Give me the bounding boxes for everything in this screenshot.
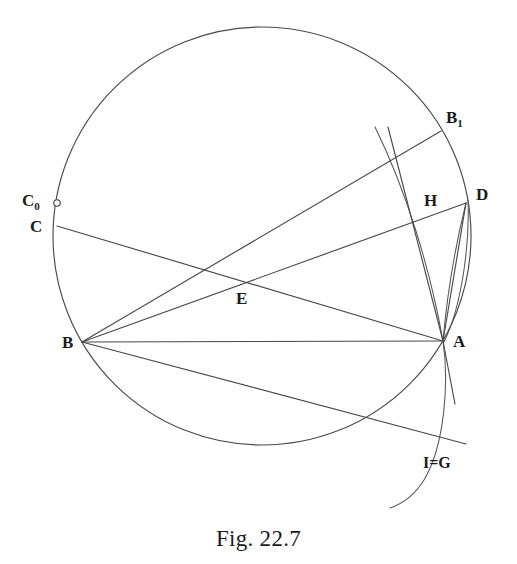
segment-b-ig bbox=[82, 342, 466, 444]
label-i-equals-g: I=G bbox=[423, 455, 451, 471]
label-c: C bbox=[30, 218, 42, 235]
label-a: A bbox=[453, 333, 465, 350]
geometry-diagram-svg bbox=[0, 0, 517, 564]
segment-b-b1 bbox=[82, 131, 441, 342]
label-b1: B1 bbox=[446, 109, 463, 129]
label-b1-text: B bbox=[446, 108, 457, 127]
segment-b-d bbox=[82, 203, 466, 342]
figure-caption: Fig. 22.7 bbox=[0, 526, 517, 552]
segment-upper-transversal-a bbox=[388, 127, 443, 341]
label-c0: C0 bbox=[22, 192, 40, 212]
label-c0-subscript: 0 bbox=[34, 200, 40, 212]
label-e: E bbox=[236, 290, 247, 307]
label-c0-text: C bbox=[22, 191, 34, 210]
label-d: D bbox=[476, 186, 488, 203]
figure-page: C0 C B A D H E B1 I=G Fig. 22.7 bbox=[0, 0, 517, 564]
label-b1-subscript: 1 bbox=[457, 117, 463, 129]
segment-d-a bbox=[443, 203, 466, 341]
label-h: H bbox=[424, 192, 437, 209]
arc-circle-d-a bbox=[444, 200, 468, 342]
segment-b-a bbox=[82, 341, 443, 342]
c0-point-marker bbox=[54, 200, 60, 206]
arc-through-a bbox=[375, 127, 446, 508]
label-b: B bbox=[62, 334, 73, 351]
